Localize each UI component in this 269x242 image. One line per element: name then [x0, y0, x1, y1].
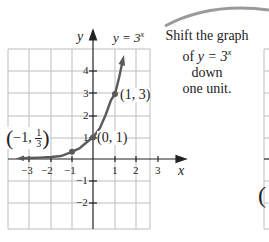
y-tick-neg1: −1	[76, 175, 88, 186]
x-tick-neg2: −2	[41, 165, 53, 176]
point-label-0-1: (0, 1)	[97, 131, 127, 145]
curve-arrowhead	[119, 55, 126, 66]
fraction: 1 3	[35, 128, 42, 149]
shift-annotation: Shift the graph of y = 3x down one unit.	[146, 28, 268, 97]
x-axis-label: x	[178, 164, 184, 178]
x-tick-neg1: −1	[64, 165, 76, 176]
y-tick-1: 1	[83, 132, 89, 143]
x-tick-3: 3	[155, 165, 161, 176]
annotation-of: of	[183, 49, 198, 64]
annotation-line-2: of y = 3x	[146, 44, 268, 65]
paren-open: (	[6, 127, 13, 149]
function-label: y = 3x	[113, 31, 144, 44]
annotation-line-1: Shift the graph	[146, 28, 268, 44]
y-axis-label: y	[77, 30, 83, 44]
y-tick-4: 4	[83, 65, 89, 76]
paren-close: )	[42, 127, 49, 149]
x-tick-2: 2	[133, 165, 139, 176]
point-label-x: −1,	[13, 131, 35, 145]
x-tick-1: 1	[112, 165, 118, 176]
y-tick-neg2: −2	[76, 197, 88, 208]
right-graph-partial-label: (	[258, 183, 266, 207]
x-tick-neg3: −3	[21, 165, 33, 176]
fraction-numerator: 1	[35, 128, 42, 139]
point-label-neg1-third: ( −1, 1 3 )	[6, 127, 50, 149]
annotation-exponent: x	[227, 47, 231, 57]
curve-left-arrowhead	[16, 156, 24, 162]
transition-arc	[165, 8, 269, 26]
y-tick-2: 2	[83, 110, 89, 121]
y-tick-3: 3	[83, 88, 89, 99]
annotation-line-4: one unit.	[146, 81, 268, 97]
function-label-text: y = 3	[113, 30, 141, 45]
annotation-line-3: down	[146, 65, 268, 81]
annotation-equation: y = 3	[198, 49, 228, 64]
fraction-denominator: 3	[36, 139, 41, 149]
function-exponent: x	[141, 30, 145, 39]
